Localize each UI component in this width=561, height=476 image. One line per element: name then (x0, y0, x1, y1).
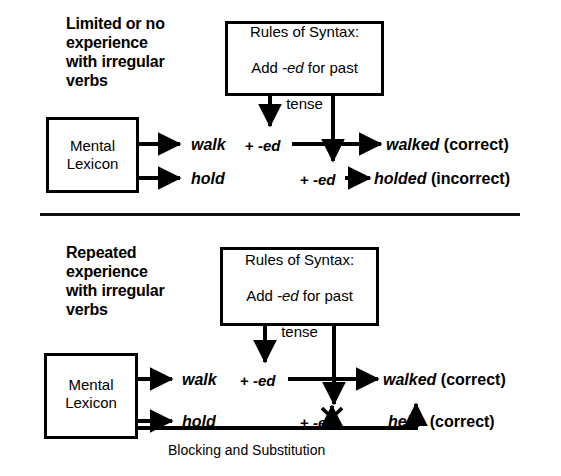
result-note-walked-bottom: (correct) (441, 371, 506, 388)
ed-text-walk-bottom: -ed (253, 372, 276, 389)
mental-lexicon-box-top: Mental Lexicon (46, 117, 139, 193)
suffix-ed-walk-bottom: + -ed (240, 372, 275, 389)
suffix-ed-walk-top: + -ed (245, 137, 280, 154)
suffix-ed-hold-top: + -ed (300, 171, 335, 188)
verb-hold-bottom: hold (182, 413, 216, 431)
rules-line-1: Rules of Syntax: (250, 23, 359, 40)
rules-line-2-post-b: for past (299, 287, 353, 304)
verb-morphology-diagram: Limited or no experience with irregular … (0, 0, 561, 476)
ed-text-hold-top: -ed (313, 171, 336, 188)
ed-text-hold-bottom: -ed (313, 414, 336, 431)
result-word-holded: holded (374, 170, 426, 187)
plus-sign-walk-bottom: + (240, 372, 249, 389)
panel-heading-limited: Limited or no experience with irregular … (66, 14, 216, 90)
blocking-substitution-path (138, 404, 418, 430)
rules-line-2-emphasis-b: -ed (277, 287, 299, 304)
plus-sign-walk-top: + (245, 137, 254, 154)
rules-of-syntax-box-bottom: Rules of Syntax: Add -ed for past tense (220, 247, 379, 326)
rules-line-2-pre: Add (251, 59, 282, 76)
result-word-walked: walked (386, 136, 439, 153)
result-word-walked-bottom: walked (383, 371, 436, 388)
rules-of-syntax-box-top: Rules of Syntax: Add -ed for past tense (225, 21, 384, 96)
panel-divider (40, 213, 520, 216)
mental-lexicon-label-bottom: Mental Lexicon (65, 376, 117, 412)
mental-lexicon-label-top: Mental Lexicon (67, 137, 119, 173)
rules-line-3: tense (286, 95, 323, 112)
suffix-ed-hold-bottom-struck: + -ed (300, 414, 335, 431)
rules-line-2-pre-b: Add (246, 287, 277, 304)
rules-line-2-post: for past (304, 59, 358, 76)
rules-line-2-emphasis: -ed (282, 59, 304, 76)
rules-line-3-b: tense (281, 323, 318, 340)
verb-walk-top: walk (191, 136, 226, 154)
plus-sign-hold-top: + (300, 171, 309, 188)
rules-line-1-b: Rules of Syntax: (245, 251, 354, 268)
verb-walk-bottom: walk (182, 371, 217, 389)
ed-text-walk-top: -ed (258, 137, 281, 154)
verb-hold-top: hold (191, 170, 225, 188)
result-walked-bottom: walked (correct) (383, 371, 506, 389)
rules-box-text-top: Rules of Syntax: Add -ed for past tense (246, 5, 363, 113)
plus-sign-hold-bottom: + (300, 414, 309, 431)
result-held-bottom: held (correct) (388, 413, 495, 431)
blocking-substitution-label: Blocking and Substitution (168, 442, 325, 458)
rules-box-text-bottom: Rules of Syntax: Add -ed for past tense (241, 233, 358, 341)
result-word-held: held (388, 413, 421, 430)
result-note-holded: (incorrect) (431, 170, 510, 187)
mental-lexicon-box-bottom: Mental Lexicon (44, 353, 138, 439)
result-note-held: (correct) (430, 413, 495, 430)
result-holded-top: holded (incorrect) (374, 170, 510, 188)
result-walked-top: walked (correct) (386, 136, 509, 154)
panel-heading-repeated: Repeated experience with irregular verbs (66, 243, 226, 319)
result-note-walked: (correct) (444, 136, 509, 153)
